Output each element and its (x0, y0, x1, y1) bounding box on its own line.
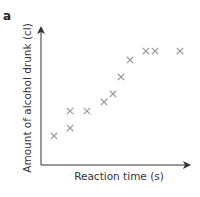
data-point (152, 48, 158, 54)
data-point (67, 108, 73, 114)
data-point (51, 133, 57, 139)
data-markers (51, 48, 183, 139)
data-point (143, 48, 149, 54)
scatter-chart: a Reaction time (s) Amount of alcohol dr… (0, 0, 200, 197)
data-point (84, 108, 90, 114)
data-point (110, 91, 116, 97)
data-point (177, 48, 183, 54)
y-axis-label: Amount of alcohol drunk (cl) (21, 23, 33, 173)
data-point (101, 99, 107, 105)
data-point (127, 57, 133, 63)
data-point (118, 74, 124, 80)
data-point (67, 125, 73, 131)
panel-label: a (3, 9, 11, 23)
x-axis-label: Reaction time (s) (74, 170, 164, 182)
